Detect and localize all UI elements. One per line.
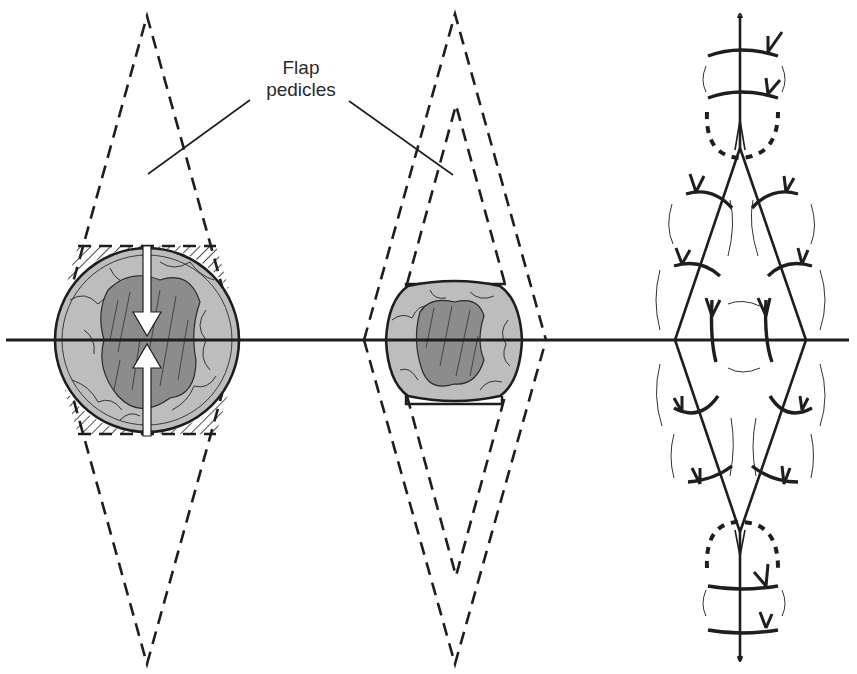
leader-line-right [349, 101, 453, 175]
leader-line-left [148, 100, 250, 174]
knot-icon [754, 564, 768, 586]
incision-line [675, 14, 806, 661]
diagram-canvas [0, 0, 857, 674]
suture-bottom-1 [708, 586, 778, 589]
knot-icon [798, 248, 808, 264]
knot-icon [690, 174, 704, 192]
knot-icon [766, 78, 780, 94]
knot-icon [784, 176, 794, 192]
suture-bottom-2 [708, 630, 778, 633]
suture-upper-right-2 [768, 264, 812, 276]
flap-pedicles-label: Flap pedicles [253, 57, 349, 101]
knot-icon [758, 298, 770, 316]
knot-icon [768, 32, 782, 52]
knot-icon [800, 396, 808, 410]
knot-icon [760, 612, 772, 628]
flap-pedicles-label-line1: Flap [253, 57, 349, 79]
flap-pedicles-label-line2: pedicles [253, 79, 349, 101]
right-panel [656, 14, 825, 661]
knot-icon [676, 248, 690, 264]
label-leader-lines [148, 100, 453, 175]
